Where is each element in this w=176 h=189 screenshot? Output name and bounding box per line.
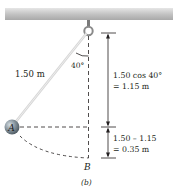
angle-arc	[76, 53, 89, 56]
point-b-label: B	[83, 162, 91, 172]
length-label: 1.50 m	[15, 69, 45, 79]
arrow-up-icon	[106, 128, 110, 133]
arrow-up-icon	[106, 34, 110, 39]
dim-upper-line2: = 1.15 m	[113, 82, 150, 91]
ceiling-beam	[5, 8, 173, 20]
swing-arc-dashed	[20, 136, 89, 158]
arrow-down-icon	[106, 153, 110, 158]
point-a-label: A	[7, 123, 15, 133]
pendulum-diagram: 40° 1.50 m A B 1.50 cos 40° = 1.15 m 1.5…	[0, 0, 176, 189]
arrow-down-icon	[106, 122, 110, 127]
dim-lower-line1: 1.50 – 1.15	[113, 134, 157, 143]
rod-highlight	[14, 34, 86, 124]
angle-label: 40°	[71, 61, 85, 70]
dim-upper-line1: 1.50 cos 40°	[113, 71, 162, 80]
figure-caption: (b)	[81, 178, 92, 187]
dim-lower-line2: = 0.35 m	[113, 145, 150, 154]
pivot-ring-inner	[87, 30, 90, 33]
